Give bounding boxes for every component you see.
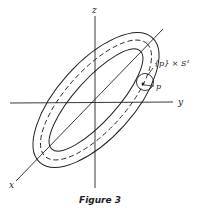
point-label: p: [156, 82, 161, 91]
torus-core-circle: [23, 23, 169, 176]
circle-label: {p} × S¹: [154, 59, 190, 68]
z-axis-label: z: [91, 5, 97, 15]
torus-diagram: z y x {p} × S¹ p Figure 3: [0, 0, 201, 208]
circle-label-leader: [148, 68, 153, 75]
x-axis-label: x: [9, 180, 14, 190]
torus-inner-boundary: [36, 37, 156, 163]
y-axis-label: y: [177, 97, 184, 107]
figure-caption: Figure 3: [79, 195, 121, 205]
meridian-circle: [137, 74, 154, 91]
torus-outer-boundary: [12, 12, 181, 188]
point-p: [142, 83, 145, 86]
